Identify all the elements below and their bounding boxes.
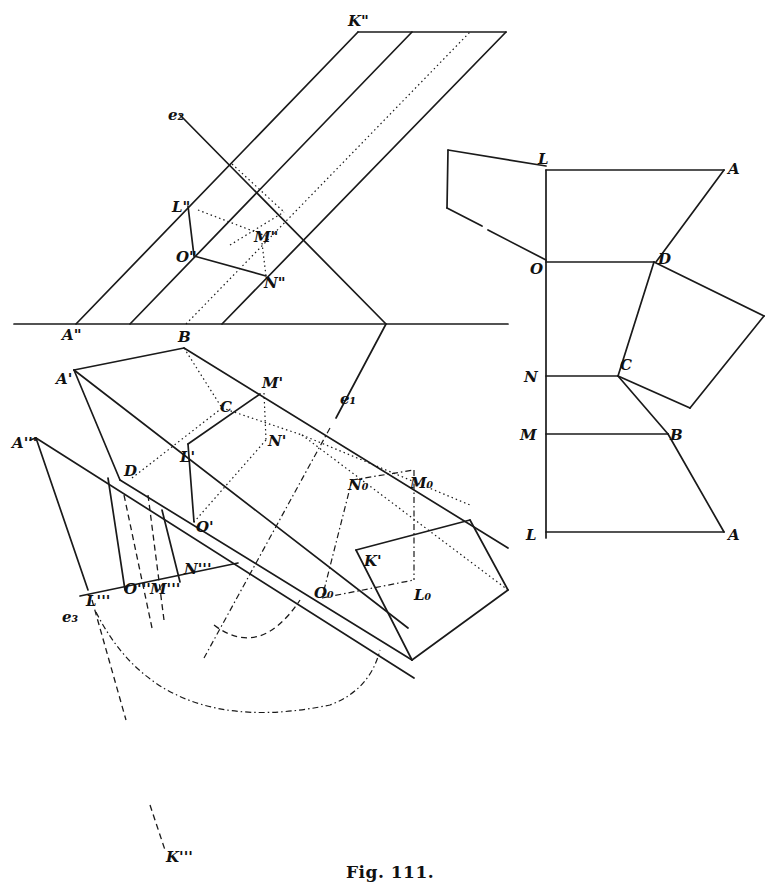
edge-line <box>690 316 764 408</box>
edge-line <box>162 510 180 582</box>
point-label: N <box>523 368 539 386</box>
point-label: K' <box>363 552 382 570</box>
hidden-line <box>264 393 266 440</box>
point-label: L <box>537 150 549 168</box>
point-label: L" <box>171 198 190 216</box>
point-label: M <box>519 426 537 444</box>
point-label: e₃ <box>62 608 79 626</box>
point-label: O" <box>176 248 197 266</box>
point-label: e₂ <box>168 106 185 124</box>
elevation-view: K"e₂L"O"M"N"A" <box>14 12 508 418</box>
edge-line <box>36 438 88 590</box>
point-label: C <box>620 356 632 374</box>
point-label: L' <box>179 448 195 466</box>
edge-line <box>108 478 125 590</box>
point-label: B <box>669 426 683 444</box>
edge-line <box>184 348 508 548</box>
figure-caption: Fig. 111. <box>346 862 434 882</box>
edge-line <box>447 208 482 226</box>
construction-arc <box>214 600 300 638</box>
hidden-line <box>302 435 508 590</box>
hidden-line <box>302 435 470 505</box>
point-label: M" <box>253 228 278 246</box>
point-label: N" <box>263 274 286 292</box>
edge-line <box>618 376 668 434</box>
point-label: e₁ <box>340 390 356 408</box>
point-label: N''' <box>183 560 212 578</box>
edge-line <box>618 376 690 408</box>
projection-line <box>92 600 126 720</box>
edge-line <box>668 434 724 532</box>
descriptive-geometry-figure: K"e₂L"O"M"N"A" BA'M'CN'A'''L'De₁N₀M₀O'K'… <box>0 0 766 893</box>
edge-line <box>356 520 470 550</box>
point-label: O₀ <box>314 584 334 602</box>
hidden-line <box>186 32 470 324</box>
point-label: A <box>726 160 740 178</box>
plan-view: BA'M'CN'A'''L'De₁N₀M₀O'K'N'''O'''M'''L''… <box>10 328 508 866</box>
point-label: C <box>220 398 232 416</box>
point-label: O' <box>196 518 214 536</box>
edge-line <box>76 32 358 324</box>
point-label: A" <box>60 326 81 344</box>
point-label: M''' <box>149 580 180 598</box>
edge-line <box>180 115 386 324</box>
projection-line <box>124 495 152 628</box>
point-label: N₀ <box>347 476 369 494</box>
point-label: D <box>657 250 671 268</box>
point-label: A' <box>54 370 72 388</box>
edge-line <box>74 370 120 480</box>
point-label: M' <box>261 374 283 392</box>
point-label: K''' <box>165 848 193 866</box>
point-label: B <box>177 328 191 346</box>
point-label: O''' <box>124 580 151 598</box>
point-label: L''' <box>85 592 110 610</box>
construction-arc <box>96 612 380 713</box>
edge-line <box>36 438 414 678</box>
point-label: L <box>525 526 537 544</box>
edge-line <box>448 150 546 166</box>
edge-line <box>74 348 184 370</box>
hidden-line <box>184 348 222 408</box>
construction-line <box>322 580 414 598</box>
point-label: A''' <box>10 434 37 452</box>
point-label: A <box>726 526 740 544</box>
point-label: L₀ <box>413 586 432 604</box>
point-label: D <box>123 462 137 480</box>
point-label: O <box>530 260 543 278</box>
point-label: N' <box>267 432 286 450</box>
edge-line <box>488 230 546 260</box>
development-net: LAODNCMBLA <box>447 150 764 544</box>
projection-line <box>150 805 165 850</box>
edge-line <box>194 256 266 276</box>
edge-line <box>656 170 724 262</box>
hidden-line <box>262 243 266 276</box>
hidden-line <box>232 164 284 212</box>
point-label: K" <box>347 12 369 30</box>
edge-line <box>447 150 448 208</box>
edge-line <box>470 520 508 590</box>
point-label: M₀ <box>409 474 434 492</box>
edge-line <box>654 262 764 316</box>
hidden-line <box>132 408 222 478</box>
